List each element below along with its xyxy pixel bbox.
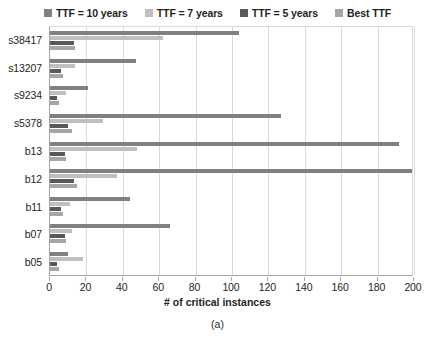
x-tick-label-140: 140 xyxy=(295,281,312,293)
y-tick-label-b05: b05 xyxy=(0,248,46,276)
bar-s5378-s0 xyxy=(50,114,281,118)
bar-s38417-s1 xyxy=(50,36,163,40)
legend-swatch-ttf7 xyxy=(145,9,153,17)
y-tick-label-s38417: s38417 xyxy=(0,26,46,54)
bar-b05-s0 xyxy=(50,252,68,256)
y-tick-label-b12: b12 xyxy=(0,165,46,193)
bar-groups xyxy=(50,27,412,275)
y-tick-label-b11: b11 xyxy=(0,193,46,221)
x-tick-label-60: 60 xyxy=(152,281,163,293)
bar-s9234-s3 xyxy=(50,101,59,105)
legend-swatch-ttf5 xyxy=(240,9,248,17)
bar-group-s5378 xyxy=(50,110,412,138)
bar-s13207-s3 xyxy=(50,74,63,78)
legend-swatch-ttf10 xyxy=(44,9,52,17)
bar-b12-s3 xyxy=(50,184,77,188)
x-tick-label-80: 80 xyxy=(189,281,200,293)
legend-swatch-best xyxy=(335,9,343,17)
legend-item-0: TTF = 10 years xyxy=(44,8,128,19)
x-axis-title: # of critical instances xyxy=(0,296,435,308)
bar-group-b05 xyxy=(50,248,412,276)
bar-b07-s0 xyxy=(50,224,170,228)
bar-group-s9234 xyxy=(50,82,412,110)
x-tick-label-200: 200 xyxy=(404,281,421,293)
legend-label-1: TTF = 7 years xyxy=(157,8,223,19)
y-axis: s38417s13207s9234s5378b13b12b11b07b05 xyxy=(0,26,46,276)
y-tick-label-s5378: s5378 xyxy=(0,109,46,137)
bar-b11-s2 xyxy=(50,207,61,211)
bar-group-b11 xyxy=(50,192,412,220)
x-tick-label-180: 180 xyxy=(368,281,385,293)
bar-b12-s1 xyxy=(50,174,117,178)
plot-area xyxy=(49,26,413,276)
y-tick-label-s9234: s9234 xyxy=(0,82,46,110)
bar-b11-s0 xyxy=(50,197,130,201)
bar-group-b07 xyxy=(50,220,412,248)
bar-group-s13207 xyxy=(50,55,412,83)
bar-b11-s1 xyxy=(50,202,70,206)
bar-b05-s1 xyxy=(50,257,83,261)
bar-s9234-s0 xyxy=(50,86,88,90)
bar-s9234-s2 xyxy=(50,96,57,100)
legend-label-2: TTF = 5 years xyxy=(252,8,318,19)
x-tick-label-100: 100 xyxy=(222,281,239,293)
bar-s5378-s1 xyxy=(50,119,103,123)
bar-b05-s2 xyxy=(50,262,57,266)
legend-item-1: TTF = 7 years xyxy=(145,8,223,19)
bar-group-b12 xyxy=(50,165,412,193)
chart-legend: TTF = 10 yearsTTF = 7 yearsTTF = 5 years… xyxy=(0,4,435,22)
bar-s5378-s3 xyxy=(50,129,72,133)
bar-b07-s2 xyxy=(50,234,65,238)
bar-b13-s1 xyxy=(50,147,137,151)
x-tick-label-160: 160 xyxy=(332,281,349,293)
bar-s13207-s0 xyxy=(50,59,136,63)
gridline-200 xyxy=(414,27,415,275)
figure-caption: (a) xyxy=(0,318,435,330)
bar-b12-s2 xyxy=(50,179,74,183)
legend-item-3: Best TTF xyxy=(335,8,391,19)
bar-b13-s0 xyxy=(50,142,399,146)
bar-b11-s3 xyxy=(50,212,63,216)
x-tick-label-20: 20 xyxy=(80,281,91,293)
legend-item-2: TTF = 5 years xyxy=(240,8,318,19)
bar-s38417-s2 xyxy=(50,41,74,45)
bar-b12-s0 xyxy=(50,169,412,173)
bar-s13207-s2 xyxy=(50,69,61,73)
y-tick-label-b13: b13 xyxy=(0,137,46,165)
bar-b07-s3 xyxy=(50,239,66,243)
bar-b13-s2 xyxy=(50,152,65,156)
bar-s38417-s3 xyxy=(50,46,75,50)
y-tick-label-s13207: s13207 xyxy=(0,54,46,82)
legend-label-3: Best TTF xyxy=(347,8,391,19)
y-tick-label-b07: b07 xyxy=(0,220,46,248)
x-tick-label-120: 120 xyxy=(259,281,276,293)
bar-s5378-s2 xyxy=(50,124,68,128)
bar-b13-s3 xyxy=(50,157,66,161)
x-tick-label-0: 0 xyxy=(46,281,52,293)
bar-group-b13 xyxy=(50,137,412,165)
bar-b07-s1 xyxy=(50,229,72,233)
bar-b05-s3 xyxy=(50,267,59,271)
x-axis: 020406080100120140160180200 xyxy=(0,277,435,293)
bar-s9234-s1 xyxy=(50,91,66,95)
legend-label-0: TTF = 10 years xyxy=(56,8,128,19)
bar-s13207-s1 xyxy=(50,64,75,68)
bar-s38417-s0 xyxy=(50,31,239,35)
x-tick-label-40: 40 xyxy=(116,281,127,293)
bar-group-s38417 xyxy=(50,27,412,55)
